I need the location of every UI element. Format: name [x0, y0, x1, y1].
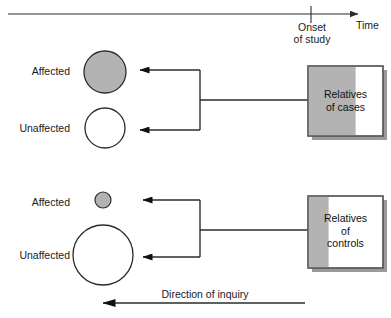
case-control-family-study-diagram: Onset of study Time Affected Unaffected … — [0, 0, 391, 318]
cases-unaffected-label: Unaffected — [0, 122, 70, 134]
diagram-canvas — [0, 0, 391, 318]
cases-affected-label: Affected — [0, 65, 70, 77]
cases-affected-circle — [84, 51, 126, 93]
controls-affected-circle — [95, 192, 111, 208]
onset-of-study-label-line2: of study — [286, 33, 338, 45]
direction-of-inquiry-label: Direction of inquiry — [120, 288, 290, 300]
controls-unaffected-label: Unaffected — [0, 249, 70, 261]
cases-box-label: Relatives of cases — [308, 88, 383, 113]
time-axis-label: Time — [356, 19, 379, 31]
cases-unaffected-circle — [85, 108, 125, 148]
controls-unaffected-circle — [73, 225, 133, 285]
controls-box-label: Relatives of controls — [308, 212, 383, 250]
controls-affected-label: Affected — [0, 196, 70, 208]
onset-of-study-label-line1: Onset — [286, 21, 338, 33]
